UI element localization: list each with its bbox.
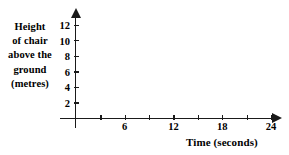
y-axis-title-line: above the xyxy=(2,48,58,62)
y-axis-title-line: Height xyxy=(2,20,58,34)
y-axis-tick-label: 6 xyxy=(54,66,70,77)
x-axis-tick-label: 6 xyxy=(110,121,140,132)
x-axis-tick-label: 24 xyxy=(256,121,286,132)
y-axis-tick-label: 12 xyxy=(54,20,70,31)
y-axis-tick-label: 8 xyxy=(54,51,70,62)
y-axis-title-line: (metres) xyxy=(2,77,58,91)
y-axis-tick-label: 10 xyxy=(54,35,70,46)
y-axis-title: Height of chair above the ground (metres… xyxy=(2,20,58,91)
y-axis-title-line: ground xyxy=(2,63,58,77)
x-axis-tick-label: 18 xyxy=(207,121,237,132)
y-axis-tick-label: 2 xyxy=(54,98,70,109)
y-axis-tick-label: 4 xyxy=(54,82,70,93)
plot-area xyxy=(76,14,274,118)
x-axis-tick-label: 12 xyxy=(158,121,188,132)
y-axis-title-line: of chair xyxy=(2,34,58,48)
x-axis-line xyxy=(60,118,274,119)
x-axis-title: Time (seconds) xyxy=(186,136,258,148)
chart-figure: Height of chair above the ground (metres… xyxy=(0,0,289,155)
